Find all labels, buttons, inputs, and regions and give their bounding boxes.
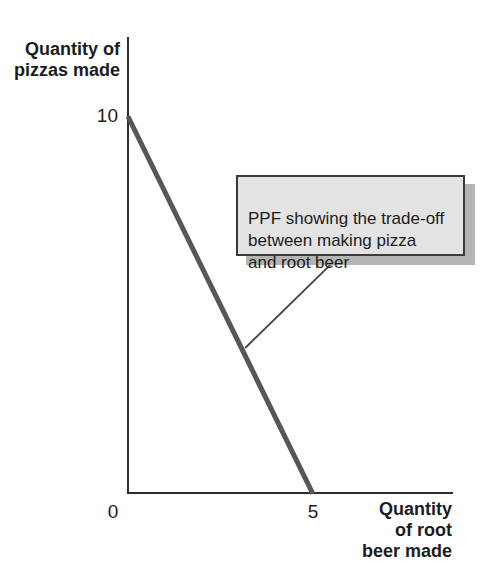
y-tick-10: 10 xyxy=(84,105,118,127)
ppf-figure: Quantity of pizzas made 10 0 5 PPF showi… xyxy=(0,0,488,586)
x-axis-line xyxy=(127,492,453,494)
x-axis-label: Quantity of root beer made xyxy=(332,499,452,562)
y-axis-label: Quantity of pizzas made xyxy=(0,39,120,81)
callout-text: PPF showing the trade-off between making… xyxy=(248,209,444,272)
callout-leader-line xyxy=(244,263,331,348)
y-axis-line xyxy=(127,37,129,494)
callout-box: PPF showing the trade-off between making… xyxy=(236,175,465,256)
x-tick-5: 5 xyxy=(299,501,327,523)
x-tick-0: 0 xyxy=(99,501,127,523)
